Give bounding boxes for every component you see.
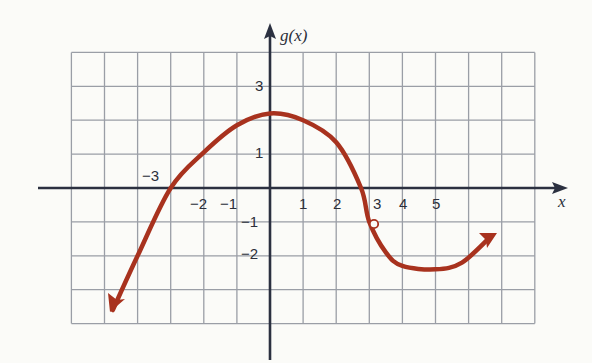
x-tick-label: −1 — [220, 196, 237, 211]
y-tick-label: −2 — [241, 246, 258, 261]
y-axis-label: g(x) — [280, 27, 307, 44]
x-axis-label: x — [558, 193, 566, 210]
y-tick-label: 1 — [255, 145, 263, 160]
x-tick-label: 2 — [333, 196, 341, 211]
function-graph — [0, 0, 592, 363]
curve-left-arrow-icon — [108, 293, 125, 312]
x-tick-label: 3 — [373, 196, 381, 211]
x-tick-label: 5 — [432, 196, 440, 211]
y-tick-label: 3 — [255, 78, 263, 93]
x-tick-label: 1 — [299, 196, 307, 211]
open-point-marker — [370, 220, 378, 228]
y-axis — [264, 23, 276, 360]
x-tick-label: 4 — [399, 196, 407, 211]
x-tick-label: −3 — [142, 168, 159, 183]
y-tick-label: −1 — [241, 214, 258, 229]
x-tick-label: −2 — [190, 196, 207, 211]
